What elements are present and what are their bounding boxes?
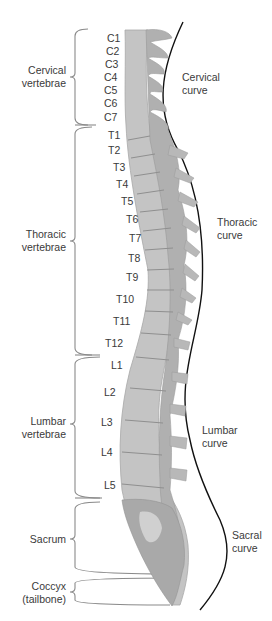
vertebra-label-t3: T3 [113, 161, 125, 173]
region-label-thoracic: Thoracic vertebrae [0, 228, 66, 254]
region-label-sacrum: Sacrum [0, 533, 66, 546]
vertebra-label-c7: C7 [104, 111, 117, 123]
curve-label-line: Sacral [232, 529, 272, 542]
vertebra-label-t1: T1 [108, 129, 120, 141]
vertebra-label-t12: T12 [105, 337, 123, 349]
region-label-line: vertebrae [0, 77, 66, 90]
vertebra-label-t5: T5 [121, 195, 133, 207]
spine-diagram: Cervical vertebrae Thoracic vertebrae Lu… [0, 0, 272, 621]
vertebra-label-l2: L2 [104, 386, 116, 398]
vertebra-label-l5: L5 [104, 479, 116, 491]
vertebra-label-t6: T6 [126, 213, 138, 225]
vertebra-label-t2: T2 [108, 144, 120, 156]
vertebra-label-l4: L4 [101, 446, 113, 458]
vertebra-label-c1: C1 [107, 32, 120, 44]
vertebra-label-c5: C5 [104, 84, 117, 96]
curve-label-sacral: Sacral curve [232, 529, 272, 555]
region-label-line: vertebrae [0, 428, 66, 441]
region-label-line: Cervical [0, 64, 66, 77]
vertebra-label-t4: T4 [116, 178, 128, 190]
curve-label-lumbar: Lumbar curve [202, 424, 262, 450]
region-label-cervical: Cervical vertebrae [0, 64, 66, 90]
region-label-line: vertebrae [0, 241, 66, 254]
curve-label-line: Lumbar [202, 424, 262, 437]
region-label-lumbar: Lumbar vertebrae [0, 415, 66, 441]
bracket-cervical [70, 29, 88, 125]
vertebra-label-l3: L3 [101, 416, 113, 428]
curve-label-cervical: Cervical curve [182, 71, 242, 97]
region-label-line: Coccyx [0, 580, 66, 593]
vertebra-label-t10: T10 [116, 293, 134, 305]
region-label-line: Lumbar [0, 415, 66, 428]
vertebra-label-c6: C6 [104, 97, 117, 109]
bracket-lumbar [70, 357, 100, 498]
vertebra-label-l1: L1 [111, 359, 123, 371]
curve-label-line: Cervical [182, 71, 242, 84]
curve-label-line: Thoracic [217, 216, 272, 229]
region-label-coccyx: Coccyx (tailbone) [0, 580, 66, 606]
vertebra-label-t11: T11 [113, 315, 130, 327]
curve-label-line: curve [202, 437, 262, 450]
vertebra-label-t8: T8 [128, 252, 140, 264]
region-label-line: (tailbone) [0, 593, 66, 606]
region-label-line: Thoracic [0, 228, 66, 241]
curve-label-line: curve [217, 229, 272, 242]
vertebra-label-c2: C2 [106, 45, 119, 57]
vertebra-label-t7: T7 [129, 232, 141, 244]
region-label-line: Sacrum [0, 533, 66, 546]
bracket-thoracic [70, 127, 92, 355]
vertebra-label-c3: C3 [105, 58, 118, 70]
curve-label-thoracic: Thoracic curve [217, 216, 272, 242]
curve-label-line: curve [182, 84, 242, 97]
vertebra-label-c4: C4 [104, 71, 117, 83]
vertebral-column-shape [120, 29, 200, 606]
vertebra-label-t9: T9 [126, 271, 138, 283]
curve-label-line: curve [232, 542, 272, 555]
